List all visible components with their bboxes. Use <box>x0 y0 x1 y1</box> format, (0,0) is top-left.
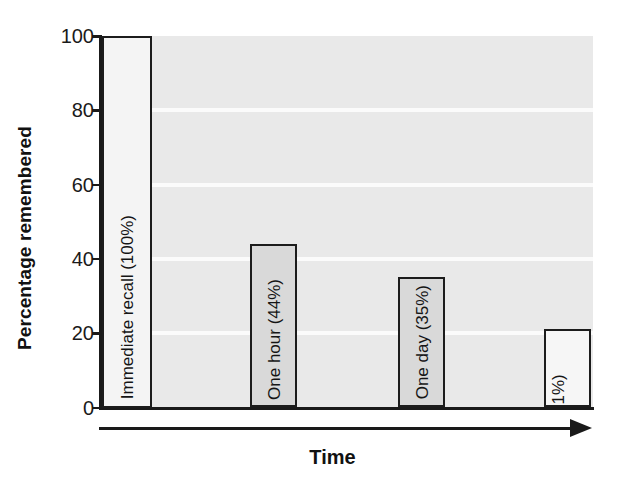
y-axis-tick-label: 20 <box>44 323 94 343</box>
y-axis-tick-label: 40 <box>44 249 94 269</box>
time-arrow-head-icon <box>570 419 592 437</box>
bar[interactable]: Immediate recall (100%) <box>102 36 152 408</box>
y-axis-tick-label: 0 <box>44 398 94 418</box>
x-axis-line <box>99 407 594 410</box>
gridline <box>101 183 593 187</box>
gridline <box>101 108 593 112</box>
x-axis-title: Time <box>0 446 627 469</box>
bar-label: Immediate recall (100%) <box>118 215 137 399</box>
y-axis-tick-labels: 020406080100 <box>44 0 94 479</box>
bar[interactable]: One day (35%) <box>398 277 445 407</box>
y-axis-tick-label: 60 <box>44 175 94 195</box>
gridline <box>101 257 593 261</box>
bar-label: One hour (44%) <box>264 279 283 400</box>
plot-area <box>101 36 593 408</box>
y-axis-title-text: Percentage remembered <box>14 126 36 350</box>
bar-chart: Percentage remembered 020406080100 Immed… <box>0 0 627 479</box>
bar[interactable]: One week(21%) <box>544 329 591 407</box>
y-axis-tick-label: 100 <box>44 26 94 46</box>
bar-label: One day (35%) <box>412 285 431 399</box>
y-axis-tick-label: 80 <box>44 100 94 120</box>
gridline <box>101 331 593 335</box>
y-axis-title: Percentage remembered <box>8 78 42 398</box>
bar[interactable]: One hour (44%) <box>250 244 297 407</box>
time-arrow-line <box>99 427 577 430</box>
x-axis-title-text: Time <box>309 446 355 469</box>
bar-label: One week(21%) <box>544 359 568 407</box>
